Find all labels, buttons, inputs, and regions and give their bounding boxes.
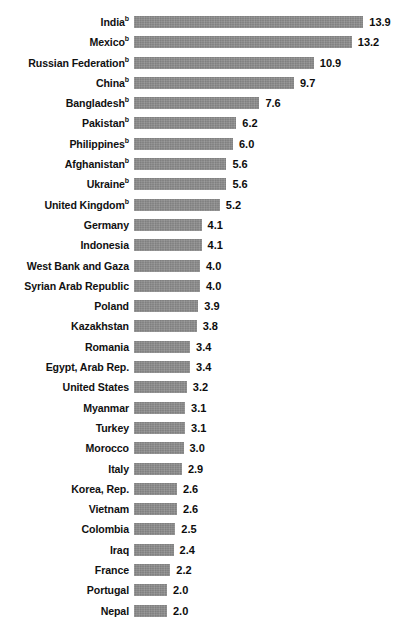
bar-row: Kazakhstan3.8 xyxy=(0,316,412,336)
bar-value-label: 4.1 xyxy=(208,215,223,235)
bar-track: 3.9 xyxy=(134,296,412,316)
bar-row: Korea, Rep.2.6 xyxy=(0,479,412,499)
bar-value-label: 2.6 xyxy=(183,499,198,519)
bar-category-label: Portugal xyxy=(0,580,129,600)
bar-value-label: 10.9 xyxy=(320,53,341,73)
chart-plot-area: Indiab13.9Mexicob13.2Russian Federationb… xyxy=(0,12,412,621)
bar-track: 5.2 xyxy=(134,195,412,215)
bar-category-label: France xyxy=(0,560,129,580)
bar-track: 2.0 xyxy=(134,580,412,600)
bar-row: Italy2.9 xyxy=(0,459,412,479)
bar-track: 4.1 xyxy=(134,215,412,235)
footnote-marker: b xyxy=(125,76,129,83)
bar-track: 2.5 xyxy=(134,519,412,539)
bar-category-label: West Bank and Gaza xyxy=(0,256,129,276)
bar xyxy=(134,239,202,251)
bar-category-label: Poland xyxy=(0,296,129,316)
bar-row: France2.2 xyxy=(0,560,412,580)
bar-value-label: 13.2 xyxy=(358,32,379,52)
bar xyxy=(134,199,220,211)
bar-category-label: Nepal xyxy=(0,601,129,621)
bar-category-label: Syrian Arab Republic xyxy=(0,276,129,296)
bar-category-label: Turkey xyxy=(0,418,129,438)
bar xyxy=(134,320,197,332)
bar-row: Indiab13.9 xyxy=(0,12,412,32)
bar xyxy=(134,605,167,617)
bar-value-label: 5.2 xyxy=(226,195,241,215)
bar-value-label: 3.2 xyxy=(193,377,208,397)
bar-category-label: Vietnam xyxy=(0,499,129,519)
bar-track: 3.4 xyxy=(134,357,412,377)
bar-track: 13.2 xyxy=(134,32,412,52)
bar-value-label: 5.6 xyxy=(232,174,247,194)
bar-value-label: 9.7 xyxy=(300,73,315,93)
bar xyxy=(134,361,190,373)
bar-value-label: 4.1 xyxy=(208,235,223,255)
bar-category-label: Philippinesb xyxy=(0,134,129,154)
bar xyxy=(134,57,314,69)
bar-row: Romania3.4 xyxy=(0,337,412,357)
bar xyxy=(134,564,170,576)
bar-row: Vietnam2.6 xyxy=(0,499,412,519)
bar-category-label: Iraq xyxy=(0,540,129,560)
bar-track: 3.0 xyxy=(134,438,412,458)
bar-row: Egypt, Arab Rep.3.4 xyxy=(0,357,412,377)
bar-category-label: Morocco xyxy=(0,438,129,458)
bar-category-label: Egypt, Arab Rep. xyxy=(0,357,129,377)
bar-track: 6.2 xyxy=(134,113,412,133)
bar-category-label: Myanmar xyxy=(0,398,129,418)
bar xyxy=(134,442,184,454)
bar-category-label: Indonesia xyxy=(0,235,129,255)
bar-row: Morocco3.0 xyxy=(0,438,412,458)
bar-category-label: United Kingdomb xyxy=(0,195,129,215)
bar xyxy=(134,158,226,170)
bar-track: 4.1 xyxy=(134,235,412,255)
bar-value-label: 2.5 xyxy=(181,519,196,539)
bar-row: Portugal2.0 xyxy=(0,580,412,600)
bar-row: Afghanistanb5.6 xyxy=(0,154,412,174)
bar-track: 7.6 xyxy=(134,93,412,113)
footnote-marker: b xyxy=(125,97,129,104)
bar-row: Germany4.1 xyxy=(0,215,412,235)
bar-track: 5.6 xyxy=(134,154,412,174)
bar-row: Bangladeshb7.6 xyxy=(0,93,412,113)
bar-value-label: 6.0 xyxy=(239,134,254,154)
bar-row: Myanmar3.1 xyxy=(0,398,412,418)
bar xyxy=(134,260,200,272)
bar-value-label: 2.0 xyxy=(173,601,188,621)
bar-value-label: 7.6 xyxy=(265,93,280,113)
bar-row: United States3.2 xyxy=(0,377,412,397)
bar xyxy=(134,544,174,556)
bar-value-label: 3.1 xyxy=(191,398,206,418)
bar xyxy=(134,422,185,434)
bar-row: Indonesia4.1 xyxy=(0,235,412,255)
bar-value-label: 2.0 xyxy=(173,580,188,600)
bar-category-label: Korea, Rep. xyxy=(0,479,129,499)
bar xyxy=(134,280,200,292)
bar-row: Syrian Arab Republic4.0 xyxy=(0,276,412,296)
bar-track: 9.7 xyxy=(134,73,412,93)
bar-value-label: 2.2 xyxy=(176,560,191,580)
bar-category-label: Bangladeshb xyxy=(0,93,129,113)
bar-category-label: Ukraineb xyxy=(0,174,129,194)
bar xyxy=(134,381,187,393)
bar-value-label: 4.0 xyxy=(206,256,221,276)
footnote-marker: b xyxy=(125,36,129,43)
bar-track: 3.1 xyxy=(134,418,412,438)
bar-value-label: 3.9 xyxy=(204,296,219,316)
bar-row: Iraq2.4 xyxy=(0,540,412,560)
bar xyxy=(134,584,167,596)
bar xyxy=(134,77,294,89)
bar-category-label: Colombia xyxy=(0,519,129,539)
bar-track: 2.6 xyxy=(134,499,412,519)
bar-row: Pakistanb6.2 xyxy=(0,113,412,133)
bar-value-label: 13.9 xyxy=(369,12,390,32)
bar-track: 3.2 xyxy=(134,377,412,397)
bar-track: 4.0 xyxy=(134,276,412,296)
bar xyxy=(134,219,202,231)
bar-value-label: 4.0 xyxy=(206,276,221,296)
bar-track: 2.0 xyxy=(134,601,412,621)
bar-row: Philippinesb6.0 xyxy=(0,134,412,154)
bar-row: Russian Federationb10.9 xyxy=(0,53,412,73)
